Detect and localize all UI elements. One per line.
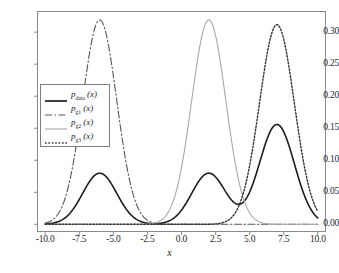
x-axis-label: x bbox=[0, 247, 339, 258]
legend-item: pg2 (x) bbox=[45, 116, 105, 130]
legend-item: pdata (x) bbox=[45, 88, 105, 102]
legend-item: pg3 (x) bbox=[45, 130, 105, 144]
y-tick-label: 0.25 bbox=[305, 59, 339, 69]
y-tick-label: 0.05 bbox=[305, 187, 339, 197]
figure: 0.000.050.100.150.200.250.30 -10.0-7.5-5… bbox=[0, 0, 339, 273]
legend-label: pg1 (x) bbox=[71, 103, 93, 115]
y-tick-label: 0.10 bbox=[305, 155, 339, 165]
legend-swatch bbox=[45, 105, 67, 113]
x-tick-label: 10.0 bbox=[298, 235, 338, 245]
y-tick-label: 0.20 bbox=[305, 91, 339, 101]
legend-swatch bbox=[45, 119, 67, 127]
legend-swatch bbox=[45, 91, 67, 99]
legend-label: pg3 (x) bbox=[71, 131, 93, 143]
legend: pdata (x)pg1 (x)pg2 (x)pg3 (x) bbox=[40, 84, 110, 147]
y-tick-label: 0.15 bbox=[305, 123, 339, 133]
legend-label: pg2 (x) bbox=[71, 117, 93, 129]
y-tick-label: 0.30 bbox=[305, 27, 339, 37]
legend-swatch bbox=[45, 133, 67, 141]
y-tick-label: 0.00 bbox=[305, 219, 339, 229]
legend-label: pdata (x) bbox=[71, 89, 97, 101]
legend-item: pg1 (x) bbox=[45, 102, 105, 116]
